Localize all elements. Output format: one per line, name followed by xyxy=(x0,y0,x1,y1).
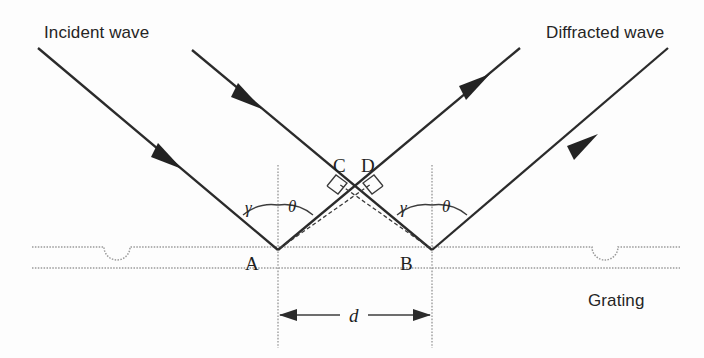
point-a-label: A xyxy=(245,253,259,274)
diffraction-grating-figure: Incident wave Diffracted wave Grating A … xyxy=(0,0,704,358)
path-difference-group xyxy=(280,184,430,248)
point-b-label: B xyxy=(400,253,413,274)
incident-rays-group xyxy=(38,48,432,250)
angle-gamma-left-label: γ xyxy=(245,198,253,217)
diffracted-wave-label: Diffracted wave xyxy=(546,23,664,42)
angle-gamma-right-label: γ xyxy=(400,198,408,217)
segment-a-to-d xyxy=(280,184,371,248)
diffracted-ray-outer xyxy=(432,48,668,250)
diffracted-rays-group xyxy=(278,48,668,250)
segment-b-to-c xyxy=(339,184,430,248)
grating-surface-group xyxy=(32,247,680,268)
diffracted-ray-outer-arrowhead xyxy=(567,134,598,160)
point-c-label: C xyxy=(333,155,346,176)
angle-theta-left-label: θ xyxy=(288,197,296,216)
grating-label: Grating xyxy=(588,291,644,310)
grating-top-line xyxy=(32,247,680,260)
dimension-arrowhead-right xyxy=(413,309,431,321)
dimension-arrowhead-left xyxy=(279,309,297,321)
spacing-d-label: d xyxy=(349,305,359,326)
diagram-canvas: Incident wave Diffracted wave Grating A … xyxy=(0,0,704,358)
incident-ray-inner xyxy=(192,50,432,250)
point-d-label: D xyxy=(361,155,375,176)
incident-wave-label: Incident wave xyxy=(44,23,149,42)
angle-theta-right-label: θ xyxy=(442,197,450,216)
